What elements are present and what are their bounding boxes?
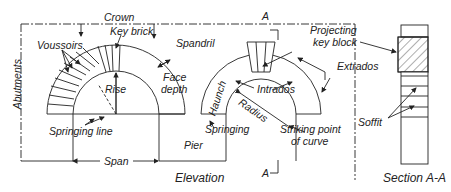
label-spandril: Spandril (176, 38, 215, 49)
label-striking-point-1: Striking point (280, 124, 341, 135)
label-pier: Pier (184, 140, 203, 151)
label-soffit: Soffit (358, 117, 382, 128)
label-springing-line: Springing line (49, 126, 113, 137)
section-mark-bottom: A (262, 168, 269, 179)
label-face-depth-2: depth (161, 84, 187, 95)
caption-section: Section A-A (383, 172, 446, 184)
label-intrados-right: Intrados (257, 84, 295, 95)
label-face-depth-1: Face (163, 72, 186, 83)
section-a-a (398, 25, 428, 164)
label-extrados: Extrados (337, 61, 378, 72)
caption-elevation: Elevation (175, 172, 224, 184)
label-span: Span (104, 156, 129, 167)
section-mark-top: A (262, 11, 269, 22)
label-springing: Springing (205, 124, 249, 135)
label-rise: Rise (105, 84, 126, 95)
arch-diagram (0, 0, 451, 192)
label-striking-point-2: of curve (291, 136, 328, 147)
label-key-brick: Key brick (110, 26, 153, 37)
label-abutments: Abutments (12, 45, 23, 109)
label-projecting-key-block-2: key block (313, 37, 357, 48)
key-block (247, 42, 275, 72)
label-voussoirs: Voussoirs (37, 40, 83, 51)
label-projecting-key-block-1: Projecting (310, 25, 357, 36)
label-crown: Crown (104, 12, 134, 23)
